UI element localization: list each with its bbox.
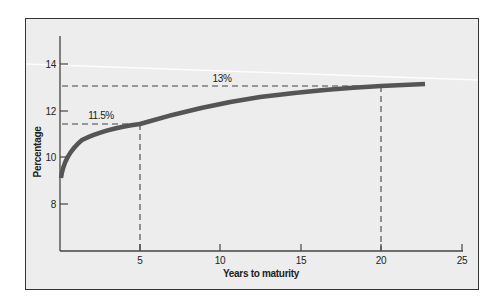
scan-artifact-line <box>26 64 478 80</box>
x-tick-label: 25 <box>457 255 468 266</box>
x-tick-label: 5 <box>137 255 143 266</box>
y-axis-title: Percentage <box>32 126 43 178</box>
x-tick-label: 20 <box>376 255 387 266</box>
x-axis-title: Years to maturity <box>223 268 300 279</box>
x-ticks: 5 10 15 20 25 <box>137 244 468 266</box>
y-tick-label: 12 <box>45 106 56 117</box>
y-tick-label: 8 <box>51 199 57 210</box>
y-tick-label: 14 <box>45 59 56 70</box>
x-tick-label: 15 <box>296 255 307 266</box>
y-ticks: 14 12 10 8 <box>45 59 68 210</box>
annotation-11-5: 11.5% <box>88 110 114 121</box>
y-tick-label: 10 <box>45 152 56 163</box>
yield-curve-chart: 14 12 10 8 5 10 15 20 25 Years to maturi… <box>0 0 504 306</box>
yield-curve-line <box>61 84 425 178</box>
x-tick-label: 10 <box>215 255 226 266</box>
annotation-13: 13% <box>213 73 232 84</box>
